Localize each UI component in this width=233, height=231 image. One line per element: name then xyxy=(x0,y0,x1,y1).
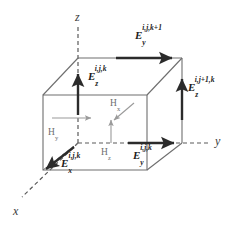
e-field-arrows xyxy=(46,58,182,169)
cube-edge-topleft xyxy=(43,58,78,95)
e-z-right-label: Ezi,j+1,k xyxy=(188,82,218,93)
e-x-front-sup: i,j,k xyxy=(69,151,81,160)
e-x-front-label: Exi,j,k xyxy=(61,158,84,169)
h-z-symbol: H xyxy=(101,147,108,157)
e-y-top-sub: y xyxy=(142,38,145,47)
e-y-top-label: Eyi,j,k+1 xyxy=(135,30,165,41)
axis-lines xyxy=(22,24,208,197)
e-x-front-sub: x xyxy=(68,166,72,175)
yee-cell-figure: z y x Eyi,j,k+1 Ezi,j,k Ezi,j+1,k Eyi,j,… xyxy=(0,0,233,231)
h-x-label: Hx xyxy=(110,99,120,109)
cube-wireframe xyxy=(43,58,182,170)
e-y-front-label: Eyi,j,k xyxy=(133,150,155,161)
h-z-label: Hz xyxy=(101,148,111,158)
h-z-sub: z xyxy=(108,154,111,161)
h-y-label: Hy xyxy=(48,128,58,138)
e-z-front-sub: z xyxy=(95,79,98,88)
e-y-front-sup: i,j,k xyxy=(140,143,152,152)
z-axis-label: z xyxy=(75,11,80,23)
e-z-right-sub: z xyxy=(195,90,198,99)
figure-canvas xyxy=(0,0,233,231)
y-axis-label: y xyxy=(215,135,220,147)
e-z-front-label: Ezi,j,k xyxy=(88,71,110,82)
e-z-front-sup: i,j,k xyxy=(95,64,107,73)
h-field-arrows xyxy=(52,103,134,143)
cube-edge-topright xyxy=(147,58,182,95)
h-x-symbol: H xyxy=(110,98,117,108)
e-z-right-sup: i,j+1,k xyxy=(195,75,215,84)
x-axis-label: x xyxy=(13,205,18,217)
h-x-sub: x xyxy=(117,105,120,112)
h-y-sub: y xyxy=(55,134,58,141)
h-y-symbol: H xyxy=(48,127,55,137)
e-y-front-sub: y xyxy=(140,158,143,167)
e-y-top-sup: i,j,k+1 xyxy=(142,23,162,32)
